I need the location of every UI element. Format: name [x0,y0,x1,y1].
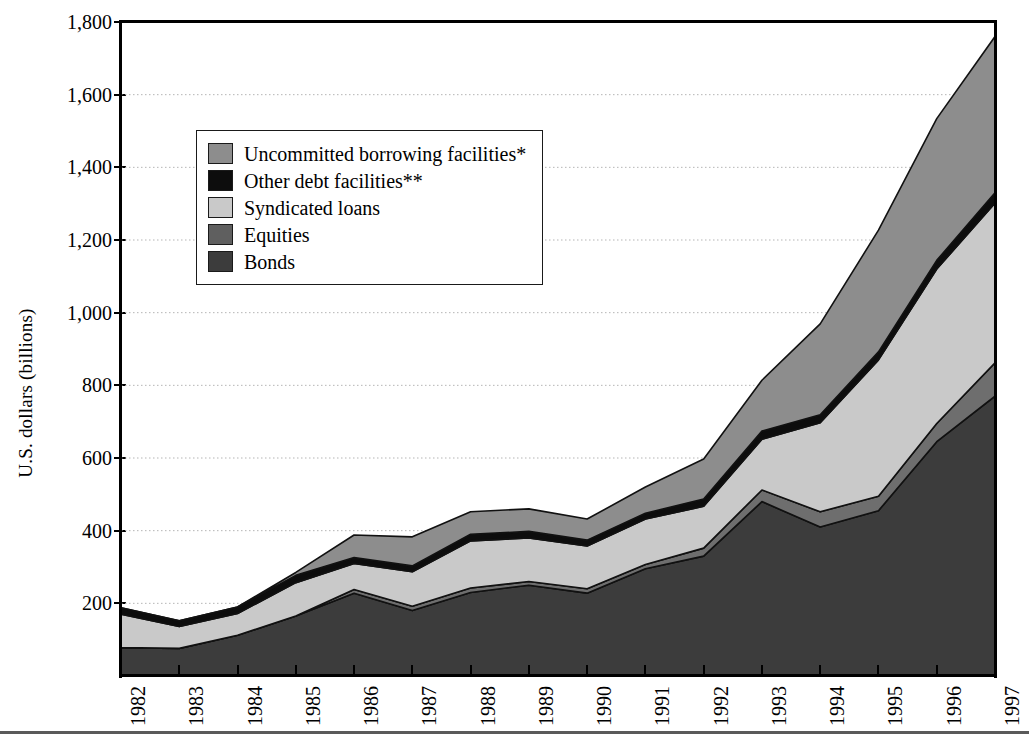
x-axis-line [119,674,997,677]
chart-legend: Uncommitted borrowing facilities*Other d… [196,130,543,285]
x-tick-label-1983: 1983 [186,686,206,749]
y-tick-label-1400: 1,400 [36,157,112,177]
legend-item-label: Other debt facilities** [244,171,423,191]
legend-item-label: Bonds [244,252,295,272]
x-tick-label-1989: 1989 [536,686,556,749]
y-tick-label-1000: 1,000 [36,303,112,323]
x-tick-mark-1992 [703,665,705,676]
x-tick-label-1990: 1990 [594,686,614,749]
x-tick-label-1991: 1991 [652,686,672,749]
x-tick-mark-1995 [877,665,879,676]
x-tick-mark-1991 [644,665,646,676]
y-tick-label-800: 800 [36,375,112,395]
legend-item-equities: Equities [208,221,526,248]
legend-item-label: Syndicated loans [244,198,380,218]
y-tick-label-400: 400 [36,521,112,541]
x-tick-mark-1986 [353,665,355,676]
y-tick-label-200: 200 [36,593,112,613]
area-series-svg [121,22,995,676]
legend-item-other-debt-facilities: Other debt facilities** [208,167,526,194]
x-tick-label-1992: 1992 [711,686,731,749]
y-axis-tick-labels: 2004006008001,0001,2001,4001,6001,800 [36,0,112,749]
x-tick-mark-1982 [120,665,122,676]
x-tick-mark-1989 [528,665,530,676]
legend-item-label: Equities [244,225,310,245]
x-tick-mark-1988 [470,665,472,676]
x-tick-label-1988: 1988 [478,686,498,749]
x-tick-label-1996: 1996 [944,686,964,749]
plot-top-edge [119,20,997,23]
y-axis-title: U.S. dollars (billions) [15,263,37,523]
x-tick-label-1987: 1987 [419,686,439,749]
x-tick-mark-1994 [819,665,821,676]
plot-right-edge [994,20,997,678]
y-tick-label-600: 600 [36,448,112,468]
x-tick-mark-1984 [237,665,239,676]
x-tick-mark-1993 [761,665,763,676]
x-tick-label-1984: 1984 [245,686,265,749]
legend-item-uncommitted-borrowing-facilities: Uncommitted borrowing facilities* [208,140,526,167]
legend-item-syndicated-loans: Syndicated loans [208,194,526,221]
legend-swatch-icon [208,224,233,245]
stacked-area-chart: U.S. dollars (billions) 2004006008001,00… [0,0,1029,749]
x-tick-mark-1987 [411,665,413,676]
legend-swatch-icon [208,143,233,164]
legend-swatch-icon [208,197,233,218]
y-axis-line [119,20,122,678]
x-tick-label-1982: 1982 [128,686,148,749]
x-tick-label-1985: 1985 [303,686,323,749]
x-tick-mark-1996 [936,665,938,676]
x-tick-label-1995: 1995 [885,686,905,749]
x-tick-label-1997: 1997 [1002,686,1022,749]
x-tick-mark-1983 [178,665,180,676]
x-tick-label-1986: 1986 [361,686,381,749]
y-tick-label-1600: 1,600 [36,85,112,105]
y-tick-label-1200: 1,200 [36,230,112,250]
legend-swatch-icon [208,170,233,191]
x-tick-mark-1990 [586,665,588,676]
bottom-divider-rule [0,731,1029,734]
legend-item-label: Uncommitted borrowing facilities* [244,144,526,164]
x-tick-mark-1997 [994,665,996,676]
x-tick-mark-1985 [295,665,297,676]
plot-area [121,22,995,676]
legend-item-bonds: Bonds [208,248,526,275]
x-tick-label-1993: 1993 [769,686,789,749]
x-tick-label-1994: 1994 [827,686,847,749]
y-tick-label-1800: 1,800 [36,12,112,32]
legend-swatch-icon [208,251,233,272]
